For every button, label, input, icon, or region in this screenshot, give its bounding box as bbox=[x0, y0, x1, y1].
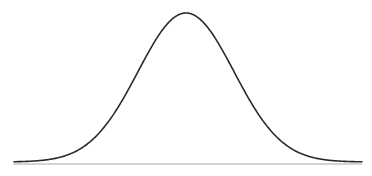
chart-canvas bbox=[0, 0, 372, 176]
bell-curve-chart bbox=[0, 0, 372, 176]
chart-background bbox=[0, 0, 372, 176]
